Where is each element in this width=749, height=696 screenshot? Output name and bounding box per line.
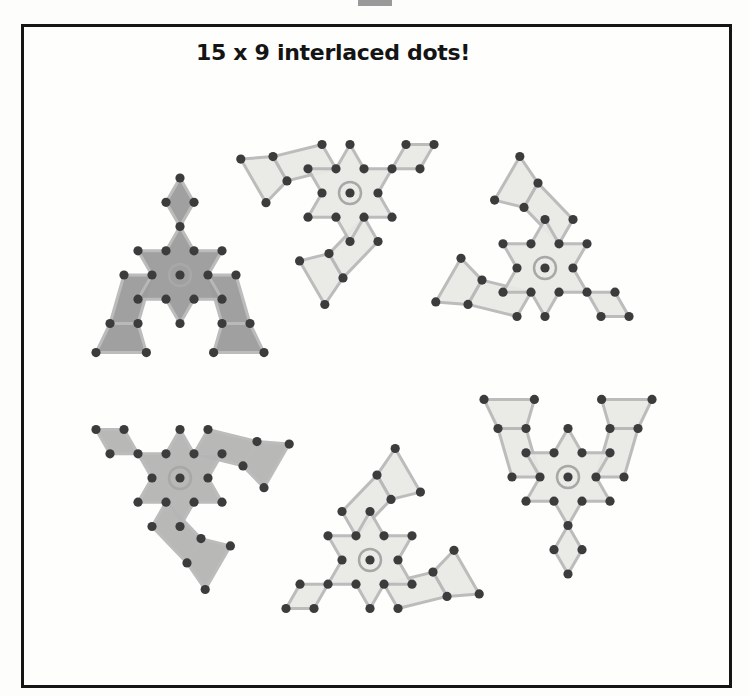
- kolam-motifs: [91, 140, 656, 613]
- bottom-left-motif: [91, 425, 293, 594]
- bottom-middle-motif: [281, 444, 483, 613]
- kolam-drawing: [0, 0, 749, 696]
- top-left-motif: [91, 173, 268, 357]
- top-middle-motif: [236, 140, 438, 309]
- top-right-motif: [431, 152, 633, 321]
- bottom-right-motif: [479, 395, 656, 579]
